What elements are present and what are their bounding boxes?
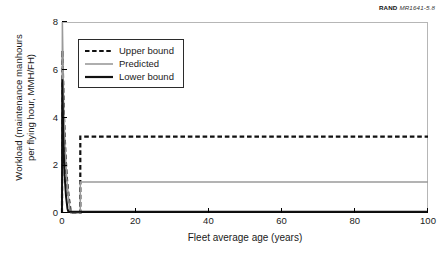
y-axis-tick bbox=[62, 21, 67, 22]
x-axis-tick-label-text: 0 bbox=[47, 216, 77, 226]
y-axis-tick bbox=[62, 117, 67, 118]
x-axis-tick bbox=[208, 208, 209, 213]
legend-label-predicted: Predicted bbox=[119, 59, 159, 69]
source-credit-document-id: MR1641-5.8 bbox=[399, 4, 435, 11]
legend-item-lower-bound: Lower bound bbox=[84, 70, 177, 83]
legend-label-upper-bound: Upper bound bbox=[119, 46, 174, 56]
x-axis-tick bbox=[427, 208, 428, 213]
source-credit-organization: RAND bbox=[379, 4, 397, 11]
x-axis-tick-label: 0 bbox=[47, 216, 77, 228]
y-axis-tick-label-text: 6 bbox=[44, 65, 58, 75]
x-axis-tick bbox=[281, 208, 282, 213]
x-axis-tick-label-text: 80 bbox=[340, 216, 370, 226]
y-axis-tick-label: 6 bbox=[44, 65, 58, 75]
figure-container: RANDMR1641-5.8 02468 020406080100 Worklo… bbox=[0, 0, 443, 260]
y-axis-tick bbox=[62, 69, 67, 70]
x-axis-tick-label: 80 bbox=[340, 216, 370, 228]
y-axis-tick bbox=[62, 165, 67, 166]
legend-item-upper-bound: Upper bound bbox=[84, 44, 177, 57]
y-axis-tick-label-text: 4 bbox=[44, 113, 58, 123]
x-axis-tick bbox=[354, 208, 355, 213]
x-axis-title: Fleet average age (years) bbox=[62, 232, 428, 243]
x-axis-tick bbox=[61, 208, 62, 213]
y-axis-tick bbox=[62, 212, 67, 213]
legend-item-predicted: Predicted bbox=[84, 57, 177, 70]
x-axis-tick-label-text: 20 bbox=[120, 216, 150, 226]
series-line-lower-bound bbox=[62, 79, 428, 213]
legend-swatch-solid-line-icon bbox=[84, 71, 114, 83]
x-axis-tick-label-text: 60 bbox=[267, 216, 297, 226]
chart-legend: Upper bound Predicted Lower bound bbox=[78, 39, 184, 88]
legend-swatch-gray-line-icon bbox=[84, 58, 114, 70]
y-axis-title: Workload (maintenance manhours per flyin… bbox=[13, 8, 36, 208]
x-axis-tick bbox=[135, 208, 136, 213]
x-axis-tick-label: 60 bbox=[267, 216, 297, 228]
y-axis-tick-label: 2 bbox=[44, 160, 58, 170]
x-axis-tick-label: 100 bbox=[413, 216, 443, 228]
x-axis-tick-label-text: 100 bbox=[413, 216, 443, 226]
x-axis-tick-label: 40 bbox=[193, 216, 223, 228]
source-credit: RANDMR1641-5.8 bbox=[379, 5, 435, 11]
y-axis-tick-label: 8 bbox=[44, 17, 58, 27]
x-axis-tick-label-text: 40 bbox=[193, 216, 223, 226]
legend-swatch-dashed-line-icon bbox=[84, 45, 114, 57]
y-axis-tick-label: 4 bbox=[44, 113, 58, 123]
x-axis-tick-label: 20 bbox=[120, 216, 150, 228]
y-axis-tick-label-text: 8 bbox=[44, 17, 58, 27]
legend-label-lower-bound: Lower bound bbox=[119, 72, 174, 82]
y-axis-tick-label-text: 2 bbox=[44, 160, 58, 170]
